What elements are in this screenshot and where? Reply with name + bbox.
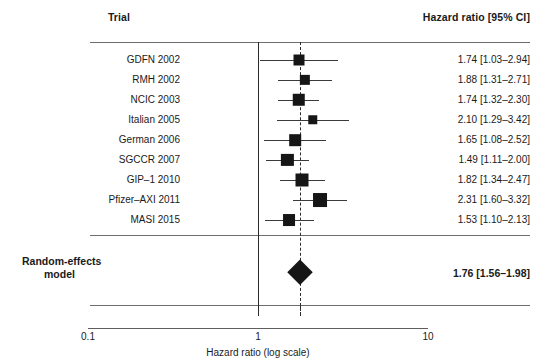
summary-value: 1.76 [1.56–1.98] <box>453 267 530 279</box>
summary-label-line2: model <box>22 268 172 281</box>
study-row: NCIC 20031.74 [1.32–2.30] <box>0 90 544 110</box>
point-estimate-marker <box>293 94 305 106</box>
summary-label: Random-effects model <box>22 255 172 280</box>
study-row: GIP–1 20101.82 [1.34–2.47] <box>0 170 544 190</box>
study-row: MASI 20151.53 [1.10–2.13] <box>0 210 544 230</box>
study-label: MASI 2015 <box>10 214 180 225</box>
x-axis-title: Hazard ratio (log scale) <box>0 347 516 358</box>
study-value: 1.49 [1.11–2.00] <box>458 154 530 165</box>
study-label: NCIC 2003 <box>10 94 180 105</box>
point-estimate-marker <box>283 214 295 226</box>
x-axis-line <box>88 328 428 329</box>
study-value: 1.82 [1.34–2.47] <box>458 174 530 185</box>
study-value: 2.31 [1.60–3.32] <box>458 194 530 205</box>
study-value: 2.10 [1.29–3.42] <box>458 114 530 125</box>
study-label: RMH 2002 <box>10 74 180 85</box>
study-label: GIP–1 2010 <box>10 174 180 185</box>
point-estimate-marker <box>289 134 301 146</box>
header-rule <box>90 42 530 43</box>
column-header-hazard-ratio: Hazard ratio [95% CI] <box>423 11 530 23</box>
studies-rule <box>90 235 530 236</box>
point-estimate-marker <box>308 115 317 124</box>
study-label: German 2006 <box>10 134 180 145</box>
study-row: GDFN 20021.74 [1.03–2.94] <box>0 50 544 70</box>
summary-label-line1: Random-effects <box>22 255 101 267</box>
study-row: RMH 20021.88 [1.31–2.71] <box>0 70 544 90</box>
study-value: 1.65 [1.08–2.52] <box>458 134 530 145</box>
study-row: Pfizer–AXI 20112.31 [1.60–3.32] <box>0 190 544 210</box>
summary-diamond <box>287 260 312 285</box>
study-label: Pfizer–AXI 2011 <box>10 194 180 205</box>
study-value: 1.74 [1.32–2.30] <box>458 94 530 105</box>
study-value: 1.88 [1.31–2.71] <box>458 74 530 85</box>
study-label: Italian 2005 <box>10 114 180 125</box>
point-estimate-marker <box>281 154 293 166</box>
point-estimate-marker <box>299 75 309 85</box>
point-estimate-marker <box>296 174 309 187</box>
study-label: SGCCR 2007 <box>10 154 180 165</box>
study-value: 1.53 [1.10–2.13] <box>458 214 530 225</box>
x-tick-label: 1 <box>255 331 261 342</box>
point-estimate-marker <box>293 55 304 66</box>
point-estimate-marker <box>313 193 327 207</box>
column-header-trial: Trial <box>64 11 174 23</box>
x-tick-mark <box>258 306 259 315</box>
x-tick-label: 10 <box>422 331 433 342</box>
summary-row: Random-effects model 1.76 [1.56–1.98] <box>0 255 544 289</box>
study-row: SGCCR 20071.49 [1.11–2.00] <box>0 150 544 170</box>
study-row: Italian 20052.10 [1.29–3.42] <box>0 110 544 130</box>
study-label: GDFN 2002 <box>10 54 180 65</box>
x-tick-pooled <box>300 306 301 315</box>
forest-plot: Trial Hazard ratio [95% CI] GDFN 20021.7… <box>0 0 544 362</box>
summary-rule <box>90 305 530 306</box>
x-tick-label: 0.1 <box>81 331 95 342</box>
study-value: 1.74 [1.03–2.94] <box>458 54 530 65</box>
study-row: German 20061.65 [1.08–2.52] <box>0 130 544 150</box>
